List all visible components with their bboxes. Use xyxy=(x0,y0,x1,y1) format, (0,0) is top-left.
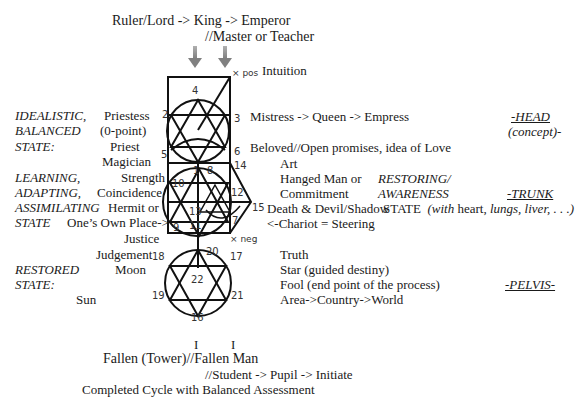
head-sub: (concept)- xyxy=(508,125,561,139)
hermit: Hermit or xyxy=(108,201,159,215)
commitment: Commitment xyxy=(280,187,349,201)
state-word: STATE xyxy=(383,201,421,216)
magician: Magician xyxy=(102,155,151,169)
node-number: 4 xyxy=(192,85,198,96)
trunk-label: -TRUNK xyxy=(507,187,553,201)
head-label: -HEAD xyxy=(511,110,550,124)
art: Art xyxy=(280,157,297,171)
area-world: Area->Country->World xyxy=(280,293,403,307)
node-number: 2 xyxy=(162,109,168,120)
priest: Priest xyxy=(110,140,140,154)
beloved-line: Beloved//Open promises, idea of Love xyxy=(250,141,451,155)
own-place: One’s Own Place-> xyxy=(67,216,169,230)
node-number: 16 xyxy=(191,312,204,323)
balanced-label: BALANCED xyxy=(15,124,81,138)
heart-word: heart, xyxy=(454,201,490,216)
assimilating-label: ASSIMILATING xyxy=(15,201,100,215)
down-arrow-icon xyxy=(218,46,232,68)
adapting-label: ADAPTING, xyxy=(15,186,81,200)
completed-line: Completed Cycle with Balanced Assessment xyxy=(82,383,315,397)
node-number: 9 xyxy=(173,222,179,233)
moon: Moon xyxy=(115,263,146,277)
node-number: 5 xyxy=(161,149,167,160)
fallen-line: Fallen (Tower)//Fallen Man xyxy=(103,352,258,366)
node-number: 3 xyxy=(234,113,240,124)
trunk-state: STATE (with heart, lungs, liver, . . .) xyxy=(383,202,574,216)
node-number: 6 xyxy=(234,146,240,157)
learning-label: LEARNING, xyxy=(15,171,80,185)
master-line: //Master or Teacher xyxy=(205,30,314,44)
chariot: <-Chariot = Steering xyxy=(267,217,375,231)
idealistic-label: IDEALISTIC, xyxy=(15,109,86,123)
with-word: with xyxy=(432,201,454,216)
node-number: 13 xyxy=(189,206,202,217)
hanged-man: Hanged Man or xyxy=(280,172,362,186)
awareness-label: AWARENESS xyxy=(378,187,449,201)
strength: Strength xyxy=(121,171,165,185)
node-number: 7 xyxy=(232,215,238,226)
fool: Fool (end point of the process) xyxy=(280,278,440,292)
pillar-right: I xyxy=(231,338,235,352)
zero-point: (0-point) xyxy=(100,124,146,138)
restored-label: RESTORED xyxy=(15,263,79,277)
death-devil: Death & Devil/Shadow xyxy=(267,202,389,216)
head-box xyxy=(168,77,230,163)
justice: Justice xyxy=(124,232,159,246)
node-number: 14 xyxy=(234,160,247,171)
node-number: 8 xyxy=(207,165,213,176)
sun: Sun xyxy=(76,293,96,307)
node-number: 21 xyxy=(231,290,244,301)
head-circle xyxy=(167,100,229,162)
node-number: 10 xyxy=(172,178,185,189)
star: Star (guided destiny) xyxy=(280,263,389,277)
x-neg-label: × neg xyxy=(230,234,257,245)
node-number: 19 xyxy=(152,290,165,301)
mistress-line: Mistress -> Queen -> Empress xyxy=(250,110,409,124)
truth: Truth xyxy=(280,248,308,262)
state-label: STATE: xyxy=(15,140,55,154)
restoring-label: RESTORING/ xyxy=(378,172,451,186)
node-number: 22 xyxy=(191,274,204,285)
node-number: 20 xyxy=(206,246,219,257)
priestess: Priestess xyxy=(104,109,150,123)
node-number: 17 xyxy=(230,251,243,262)
judgement: Judgement xyxy=(96,248,152,262)
node-number: 1 xyxy=(193,165,199,176)
node-number: 12 xyxy=(231,187,244,198)
pillar-left: I xyxy=(194,338,198,352)
node-number: 18 xyxy=(152,251,165,262)
node-number: 11 xyxy=(189,220,202,231)
pelvis-label: -PELVIS- xyxy=(505,278,555,292)
student-line: //Student -> Pupil -> Initiate xyxy=(205,368,353,382)
down-arrow-icon xyxy=(188,46,202,68)
node-number: 15 xyxy=(252,202,265,213)
ruler-line: Ruler/Lord -> King -> Emperor xyxy=(112,14,290,28)
state-label: STATE: xyxy=(15,278,55,292)
x-pos-label: × pos xyxy=(232,68,258,79)
state-label: STATE xyxy=(15,216,50,230)
organs: lungs, liver, . . .) xyxy=(490,201,574,216)
intuition-label: Intuition xyxy=(262,64,307,78)
coincidence: Coincidence xyxy=(97,186,162,200)
